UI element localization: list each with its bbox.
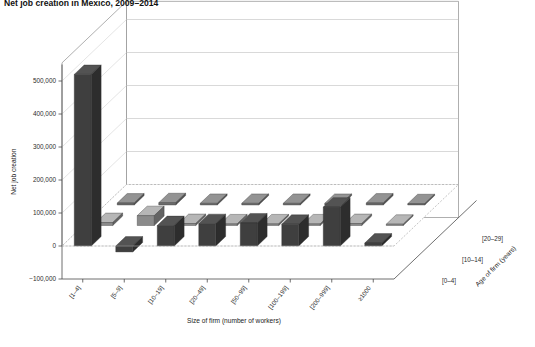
bar-front-face: [323, 207, 340, 246]
x-tick-label-3: [20–49]: [188, 284, 206, 305]
bar-front-face: [283, 203, 300, 205]
bar-front-face: [117, 203, 134, 205]
bar-front-face: [386, 224, 403, 225]
bar-front-face: [116, 246, 133, 252]
bar-front-face: [282, 224, 299, 246]
depth-tick-label-0: [0–4]: [442, 277, 456, 285]
x-tick-label-1: [5–9]: [109, 284, 123, 299]
y-tick-label-100000: 100,000: [33, 209, 57, 216]
x-tick-label-0: [1–4]: [68, 284, 82, 299]
bar-front-face: [242, 203, 259, 205]
chart-figure: −100,0000100,000200,000300,000400,000500…: [0, 0, 535, 347]
depth-tick-label-1: [10–14]: [462, 256, 483, 264]
bar-front-face: [408, 204, 425, 205]
bar-side-face: [91, 65, 101, 246]
y-tick-label--100000: −100,000: [29, 275, 56, 282]
x-tick-label-2: [10–19]: [146, 284, 164, 305]
bar-front-face: [137, 216, 154, 226]
x-tick-label-5: [100–199]: [267, 284, 290, 310]
y-axis-title: Net job creation: [10, 148, 18, 195]
bar-front-face: [159, 203, 176, 205]
bar-front-face: [157, 226, 174, 246]
bar-front-face: [366, 203, 383, 205]
bar-front-face: [240, 223, 257, 246]
bar-front-face: [199, 224, 216, 246]
y-tick-label-0: 0: [52, 242, 56, 249]
chart-title: Net job creation in Mexico, 2009–2014: [4, 0, 158, 8]
y-tick-label-400000: 400,000: [33, 110, 57, 117]
bar-front-face: [200, 203, 217, 205]
x-axis-title: Size of firm (number of workers): [187, 317, 281, 325]
y-tick-label-300000: 300,000: [33, 143, 57, 150]
bar-200999-04[interactable]: [323, 198, 350, 246]
net-job-creation-3d-bar-chart: −100,0000100,000200,000300,000400,000500…: [0, 0, 535, 347]
bar-14-04[interactable]: [74, 65, 101, 246]
y-tick-label-500000: 500,000: [33, 77, 57, 84]
x-tick-label-7: ≥1000: [356, 284, 372, 302]
x-tick-label-6: [200–999]: [308, 284, 331, 310]
y-tick-label-200000: 200,000: [33, 176, 57, 183]
depth-axis-title: Age of firm (years): [474, 244, 518, 288]
depth-tick-label-2: [20–29]: [482, 235, 503, 243]
x-tick-label-4: [50–99]: [229, 284, 247, 305]
bar-front-face: [74, 74, 91, 246]
bar-front-face: [365, 243, 382, 246]
